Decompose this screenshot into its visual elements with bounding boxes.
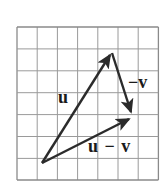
vector-diagram-figure: u −v u − v [0,0,166,188]
vector-label-neg-v: −v [128,73,147,91]
vector-label-u-minus-v: u − v [88,137,131,155]
vector-label-u: u [58,88,68,106]
vector-diagram-canvas [0,0,166,188]
grid-lines [17,27,158,180]
